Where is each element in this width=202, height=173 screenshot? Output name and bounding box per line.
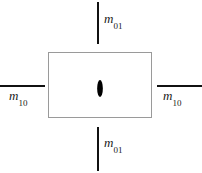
label-left: m10 <box>9 89 27 106</box>
label-right-symbol: m <box>163 88 172 103</box>
label-right-subscript: 10 <box>172 98 181 108</box>
label-bottom-subscript: 01 <box>113 145 122 155</box>
flux-line-bottom <box>97 127 99 171</box>
label-top-symbol: m <box>104 11 113 26</box>
label-right: m10 <box>163 89 181 106</box>
label-bottom-symbol: m <box>104 135 113 150</box>
label-top: m01 <box>104 12 122 29</box>
flux-line-left <box>0 85 45 87</box>
label-top-subscript: 01 <box>113 21 122 31</box>
label-left-symbol: m <box>9 88 18 103</box>
flux-line-right <box>157 85 202 87</box>
flux-line-top <box>97 2 99 44</box>
label-bottom: m01 <box>104 136 122 153</box>
label-left-subscript: 10 <box>18 98 27 108</box>
center-lens-marker <box>97 80 103 97</box>
diagram-canvas: m01 m01 m10 m10 <box>0 0 202 173</box>
